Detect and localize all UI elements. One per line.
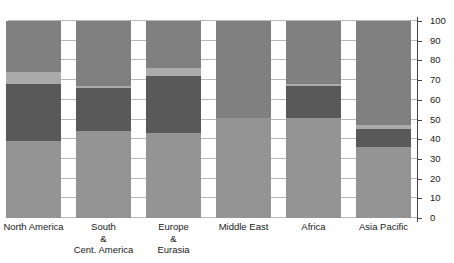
bar-segment [286,86,341,118]
bar-segment [6,84,61,141]
bar-segment [286,118,341,218]
bar-group [286,21,341,218]
bar-stack [146,21,201,218]
y-axis-tick [417,179,422,180]
bar-segment [76,86,131,88]
y-axis-tick-label: 30 [430,154,441,164]
bar-segment [6,141,61,218]
bar-segment [356,125,411,129]
bar-segment [76,88,131,131]
bar-group [216,21,271,218]
y-axis-tick-label: 100 [430,16,446,26]
bar-segment [356,147,411,218]
bar-group [6,21,61,218]
bar-stack [356,21,411,218]
bar-segment [146,21,201,68]
bar-segment [76,131,131,218]
y-axis-tick-label: 60 [430,95,441,105]
y-axis-tick [417,159,422,160]
bar-group [76,21,131,218]
y-axis-tick-label: 20 [430,174,441,184]
bar-segment [6,72,61,84]
y-axis-tick [417,100,422,101]
bar-segment [146,133,201,218]
stacked-bar-chart: 0102030405060708090100 North AmericaSout… [0,0,454,263]
y-axis-tick-label: 40 [430,134,441,144]
bar-group [356,21,411,218]
bar-segment [356,21,411,125]
bar-group [146,21,201,218]
bar-segment [146,76,201,133]
bar-segment [146,68,201,76]
y-axis-tick [417,60,422,61]
y-axis-tick-label: 50 [430,115,441,125]
bar-segment [286,84,341,86]
y-axis-tick [417,198,422,199]
y-axis-tick-label: 0 [430,213,435,223]
y-axis-tick-label: 80 [430,55,441,65]
bar-segment [216,21,271,118]
plot-area [8,21,417,218]
y-axis-tick [417,139,422,140]
y-axis-tick-label: 90 [430,36,441,46]
bar-stack [286,21,341,218]
y-axis-tick [417,21,422,22]
bar-stack [216,21,271,218]
bar-stack [6,21,61,218]
y-axis-tick [417,218,422,219]
y-axis-tick [417,120,422,121]
bar-segment [76,21,131,86]
y-axis-tick-label: 70 [430,75,441,85]
bar-segment [6,21,61,72]
bar-segment [356,129,411,147]
bar-segment [216,118,271,218]
y-axis-tick [417,80,422,81]
bar-segment [286,21,341,84]
y-axis-tick-label: 10 [430,193,441,203]
y-axis-tick [417,41,422,42]
bar-stack [76,21,131,218]
x-axis-category-label: Asia Pacific [338,221,430,233]
x-axis-category-labels: North AmericaSouth & Cent. AmericaEurope… [8,221,417,263]
